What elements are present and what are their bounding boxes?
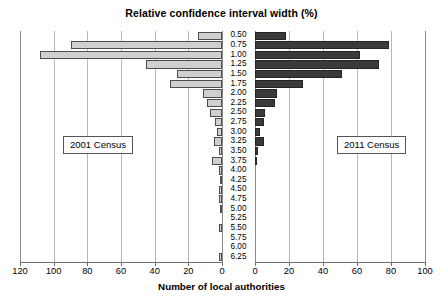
category-label-4.25: 4.25 xyxy=(222,175,255,185)
bar-row xyxy=(255,41,425,51)
category-label-1.00: 1.00 xyxy=(222,50,255,60)
bar-row xyxy=(255,108,425,118)
x-tick-label-120: 120 xyxy=(5,266,35,276)
bar-row xyxy=(20,224,222,234)
bar-2001-census-1.00 xyxy=(40,51,222,59)
bar-row xyxy=(255,224,425,234)
category-label-0.50: 0.50 xyxy=(222,30,255,40)
x-tick-label-80: 80 xyxy=(72,266,102,276)
x-axis-title: Number of local authorities xyxy=(0,281,443,292)
bar-2011-census-3.50 xyxy=(255,147,258,155)
bar-row xyxy=(20,70,222,80)
bar-row xyxy=(20,98,222,108)
bar-row xyxy=(255,89,425,99)
category-label-5.75: 5.75 xyxy=(222,233,255,243)
bar-row xyxy=(255,252,425,262)
category-label-2.00: 2.00 xyxy=(222,88,255,98)
chart-title: Relative confidence interval width (%) xyxy=(0,7,443,19)
bar-row xyxy=(255,98,425,108)
bar-row xyxy=(255,60,425,70)
x-axis-baseline-right xyxy=(255,262,425,263)
chart-figure: Relative confidence interval width (%) 0… xyxy=(0,0,443,301)
x-tick-label-60: 60 xyxy=(106,266,136,276)
category-label-1.50: 1.50 xyxy=(222,69,255,79)
bar-2011-census-2.75 xyxy=(255,118,264,126)
category-label-6.00: 6.00 xyxy=(222,242,255,252)
bar-2011-census-3.75 xyxy=(255,157,257,165)
bar-2001-census-1.75 xyxy=(170,80,222,88)
bar-2011-census-1.25 xyxy=(255,60,379,68)
bar-row xyxy=(20,118,222,128)
category-label-3.75: 3.75 xyxy=(222,156,255,166)
bar-row xyxy=(255,195,425,205)
x-tick-label-0: 0 xyxy=(240,266,270,276)
x-tick-label-20: 20 xyxy=(173,266,203,276)
category-label-5.00: 5.00 xyxy=(222,204,255,214)
category-label-4.50: 4.50 xyxy=(222,184,255,194)
bar-row xyxy=(20,214,222,224)
bar-row xyxy=(255,204,425,214)
bar-2001-census-2.75 xyxy=(215,118,222,126)
bar-row xyxy=(255,243,425,253)
bar-row xyxy=(20,195,222,205)
bar-2001-census-0.75 xyxy=(71,41,223,49)
category-label-0.75: 0.75 xyxy=(222,40,255,50)
category-label-4.75: 4.75 xyxy=(222,194,255,204)
bar-row xyxy=(255,118,425,128)
bar-2001-census-2.25 xyxy=(207,99,222,107)
bar-row xyxy=(20,50,222,60)
bar-2001-census-1.25 xyxy=(146,60,222,68)
bar-2011-census-0.50 xyxy=(255,32,286,40)
bar-row xyxy=(20,243,222,253)
x-tick-label-100: 100 xyxy=(410,266,440,276)
bar-2011-census-2.25 xyxy=(255,99,275,107)
gridline-right-100 xyxy=(425,31,426,262)
bar-2011-census-1.00 xyxy=(255,51,360,59)
bar-row xyxy=(20,31,222,41)
bar-row xyxy=(20,156,222,166)
x-tick-label-40: 40 xyxy=(140,266,170,276)
bar-2001-census-3.75 xyxy=(212,157,222,165)
bar-2001-census-2.00 xyxy=(203,89,222,97)
bar-row xyxy=(20,233,222,243)
x-tick-label-0: 0 xyxy=(207,266,237,276)
bar-row xyxy=(255,50,425,60)
category-label-5.25: 5.25 xyxy=(222,213,255,223)
bar-row xyxy=(255,156,425,166)
bar-row xyxy=(255,214,425,224)
category-label-4.00: 4.00 xyxy=(222,165,255,175)
bar-row xyxy=(20,89,222,99)
x-tick-label-100: 100 xyxy=(39,266,69,276)
bar-2011-census-3.00 xyxy=(255,128,260,136)
bar-2011-census-1.50 xyxy=(255,70,342,78)
bar-row xyxy=(255,175,425,185)
category-axis-labels: 0.500.751.001.251.501.752.002.252.502.75… xyxy=(222,31,255,262)
bar-row xyxy=(255,233,425,243)
bar-2011-census-3.25 xyxy=(255,137,264,145)
category-label-1.25: 1.25 xyxy=(222,59,255,69)
bar-row xyxy=(255,70,425,80)
category-label-2.75: 2.75 xyxy=(222,117,255,127)
bar-2011-census-1.75 xyxy=(255,80,303,88)
bar-row xyxy=(255,166,425,176)
category-label-2.50: 2.50 xyxy=(222,107,255,117)
bar-row xyxy=(20,166,222,176)
bar-row xyxy=(20,108,222,118)
bar-2011-census-0.75 xyxy=(255,41,389,49)
bar-row xyxy=(20,185,222,195)
bar-2001-census-1.50 xyxy=(177,70,222,78)
x-tick-label-20: 20 xyxy=(274,266,304,276)
bar-row xyxy=(20,175,222,185)
bar-row xyxy=(20,60,222,70)
x-tick-label-80: 80 xyxy=(376,266,406,276)
bar-2001-census-3.25 xyxy=(214,137,222,145)
x-tick-label-40: 40 xyxy=(308,266,338,276)
category-label-1.75: 1.75 xyxy=(222,79,255,89)
category-label-3.00: 3.00 xyxy=(222,127,255,137)
legend-2011-census: 2011 Census xyxy=(337,136,406,154)
category-label-5.50: 5.50 xyxy=(222,223,255,233)
category-label-3.50: 3.50 xyxy=(222,146,255,156)
bar-2011-census-2.50 xyxy=(255,109,265,117)
category-label-2.25: 2.25 xyxy=(222,98,255,108)
bar-row xyxy=(20,41,222,51)
